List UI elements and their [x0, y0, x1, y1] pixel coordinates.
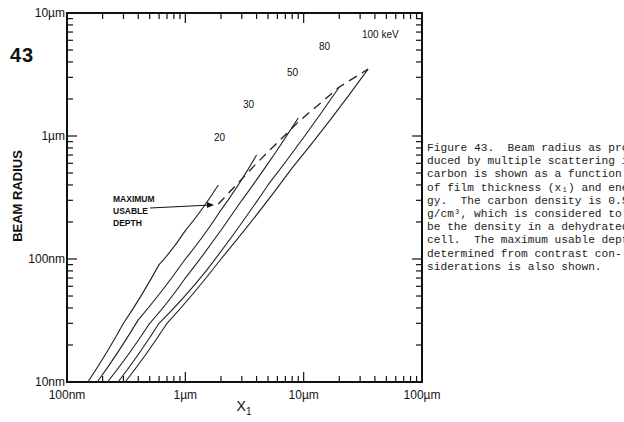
y-tick-label: 100nm [28, 252, 65, 266]
energy-curve [125, 69, 368, 382]
caption-line: be the density in a dehydrated [427, 221, 623, 234]
curve-label: 30 [243, 99, 255, 110]
curve-label: 20 [214, 132, 226, 143]
caption-line: duced by multiple scattering in [427, 155, 623, 168]
curve-label: 80 [319, 41, 331, 52]
x-tick-label: 10µm [289, 388, 319, 402]
data-curves: 20305080100 keVMAXIMUMUSABLEDEPTH [88, 29, 399, 382]
y-tick-label: 10µm [35, 6, 65, 20]
y-axis-label: BEAM RADIUS [10, 150, 25, 242]
energy-curve [88, 185, 218, 382]
caption-line: siderations is also shown. [427, 261, 623, 274]
x-tick-label: 100nm [49, 388, 86, 402]
caption-line: carbon is shown as a function [427, 168, 623, 181]
annotation-text: MAXIMUM [113, 194, 155, 204]
y-tick-label: 1µm [41, 129, 65, 143]
figure-caption: Figure 43. Beam radius as pro-duced by m… [427, 142, 623, 274]
x-tick-label: 1µm [174, 388, 198, 402]
annotation-text: USABLE [113, 206, 148, 216]
x-tick-label: 100µm [404, 388, 441, 402]
caption-line: determined from contrast con- [427, 248, 623, 261]
caption-line: gy. The carbon density is 0.5 [427, 195, 623, 208]
axis-labels: 100nm1µm10µm100µm10nm100nm1µm10µmX1BEAM … [10, 6, 440, 417]
curve-label: 100 keV [362, 29, 399, 40]
caption-line: Figure 43. Beam radius as pro- [427, 142, 623, 155]
annotation-arrow [150, 205, 211, 208]
caption-line: of film thickness (x₁) and ener- [427, 182, 623, 195]
y-tick-label: 10nm [35, 375, 65, 389]
caption-line: g/cm³, which is considered to [427, 208, 623, 221]
caption-line: cell. The maximum usable depth, [427, 234, 623, 247]
max-usable-depth-curve [218, 69, 368, 204]
energy-curve [118, 87, 339, 382]
arrowhead-icon [207, 202, 214, 208]
energy-curve [108, 118, 299, 382]
x-axis-label: X1 [237, 398, 252, 417]
annotation-text: DEPTH [113, 218, 142, 228]
curve-label: 50 [287, 67, 299, 78]
